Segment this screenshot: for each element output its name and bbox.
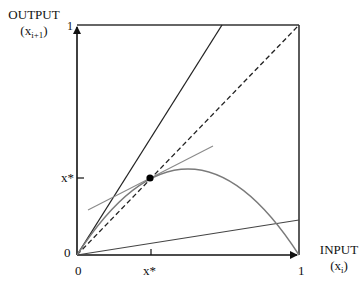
cobweb-diagram xyxy=(0,0,363,285)
y-axis-tick-xstar: x* xyxy=(61,171,74,185)
y-axis-variable: (xi+1) xyxy=(6,24,62,42)
identity-line xyxy=(77,25,299,255)
shallow-line xyxy=(77,220,299,255)
x-axis-title-text: INPUT xyxy=(316,243,362,257)
steep-line xyxy=(77,25,222,255)
x-axis-var-sub: i xyxy=(341,265,344,275)
x-axis-variable: (xi) xyxy=(316,259,362,277)
fixed-point xyxy=(146,174,153,181)
y-axis-tick-1: 1 xyxy=(67,19,73,33)
y-axis-title: OUTPUT (xi+1) xyxy=(6,8,62,42)
y-axis-title-text: OUTPUT xyxy=(6,8,62,22)
x-axis-tick-xstar: x* xyxy=(143,264,156,278)
x-axis-title: INPUT (xi) xyxy=(316,243,362,277)
x-axis-tick-1: 1 xyxy=(298,264,305,278)
x-axis-tick-0: 0 xyxy=(75,264,82,278)
y-axis-tick-0: 0 xyxy=(64,246,71,260)
map-curve xyxy=(77,169,299,255)
y-axis-var-sub: i+1 xyxy=(31,30,43,40)
